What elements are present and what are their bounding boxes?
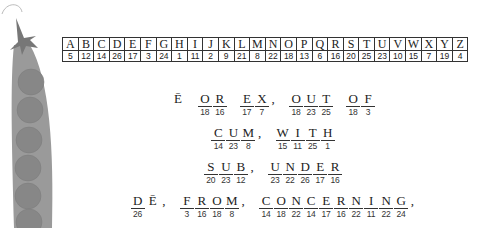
letter-cell: R16 (194, 194, 209, 219)
key-number: 21 (234, 51, 250, 62)
letter-cell: I11 (364, 194, 379, 219)
cell-number: 20 (206, 175, 215, 185)
cell-number: 16 (215, 107, 224, 117)
key-number: 8 (250, 51, 266, 62)
letter-cell: D26 (130, 194, 145, 219)
key-number: 1 (172, 51, 188, 62)
key-letter: L (234, 38, 250, 51)
key-number: 12 (78, 51, 94, 62)
key-letter: K (218, 38, 234, 51)
cell-number: 16 (336, 209, 345, 219)
cell-letter: D (131, 194, 145, 209)
cell-number: 18 (212, 209, 221, 219)
cell-number: 17 (321, 209, 330, 219)
cell-letter: R (195, 194, 209, 209)
cell-letter: N (349, 194, 363, 209)
cell-letter: U (304, 92, 318, 107)
cell-letter: U (226, 126, 240, 141)
key-letter: P (296, 38, 312, 51)
cell-letter: D (298, 160, 312, 175)
key-number: 4 (452, 51, 468, 62)
key-letter: W (406, 38, 422, 51)
letter-cell: O18 (209, 194, 224, 219)
key-letter: C (94, 38, 110, 51)
comma: , (271, 92, 274, 106)
puzzle-word: O18U23T25 (289, 92, 334, 117)
letter-cell: C14 (304, 194, 319, 219)
letter-cell: M8 (224, 194, 239, 219)
cell-letter: Ē (146, 194, 160, 208)
cell-letter: O (346, 92, 360, 107)
key-letter: S (343, 38, 359, 51)
cell-number: 1 (325, 141, 330, 151)
cell-letter: N (289, 194, 303, 209)
cell-letter: M (225, 194, 239, 209)
cell-number: 16 (197, 209, 206, 219)
key-number: 23 (374, 51, 390, 62)
letter-cell: Ē (145, 194, 160, 208)
cell-letter: I (364, 194, 378, 209)
puzzle-word: O18F3 (346, 92, 376, 117)
cell-letter: S (204, 160, 218, 175)
cell-number: 3 (366, 107, 371, 117)
cell-number: 15 (278, 141, 287, 151)
puzzle-word: C14O18N22C14E17R16N22I11N22G24, (259, 194, 416, 219)
cell-letter: B (234, 160, 248, 175)
cell-letter: E (240, 92, 254, 107)
cell-number: 7 (260, 107, 265, 117)
key-number: 15 (406, 51, 422, 62)
key-letter: E (125, 38, 141, 51)
letter-cell: N22 (379, 194, 394, 219)
key-number: 6 (312, 51, 328, 62)
puzzle-word: E17X7, (239, 92, 276, 117)
puzzle-word: D26Ē, (130, 194, 167, 219)
letter-cell: H1 (320, 126, 335, 151)
puzzle-line: C14U23M8,W15I11T25H1 (62, 126, 484, 160)
puzzle-word: S20U23B12, (203, 160, 255, 185)
cell-number: 23 (306, 107, 315, 117)
key-number: 14 (94, 51, 110, 62)
comma: , (241, 194, 244, 208)
letter-cell: W15 (275, 126, 290, 151)
letter-cell: S20 (203, 160, 218, 185)
cell-letter: F (361, 92, 375, 107)
cell-letter: M (241, 126, 255, 141)
key-number: 16 (328, 51, 344, 62)
key-number: 19 (437, 51, 453, 62)
puzzle-line: S20U23B12,U23N22D26E17R16 (62, 160, 484, 194)
cell-number: 18 (200, 107, 209, 117)
letter-cell: U23 (218, 160, 233, 185)
key-number: 9 (218, 51, 234, 62)
cell-number: 24 (396, 209, 405, 219)
cell-number: 26 (133, 209, 142, 219)
cell-number: 22 (381, 209, 390, 219)
cell-number: 11 (293, 141, 302, 151)
cell-number: 22 (291, 209, 300, 219)
cell-number: 23 (221, 175, 230, 185)
letter-cell: O18 (289, 92, 304, 117)
key-number: 24 (156, 51, 172, 62)
cell-number: 17 (242, 107, 251, 117)
letter-cell: C14 (211, 126, 226, 151)
comma: , (250, 160, 253, 174)
cell-number: 23 (229, 141, 238, 151)
puzzle-word: C14U23M8, (211, 126, 263, 151)
cell-number: 8 (246, 141, 251, 151)
key-letter: M (250, 38, 266, 51)
key-letter: Y (437, 38, 453, 51)
key-letter: J (203, 38, 219, 51)
cell-letter: R (328, 160, 342, 175)
letter-cell: G24 (394, 194, 409, 219)
letter-cell: N22 (349, 194, 364, 219)
pea-pod-illustration (0, 0, 62, 228)
letter-cell: M8 (241, 126, 256, 151)
comma: , (162, 194, 165, 208)
cell-number: 22 (285, 175, 294, 185)
cell-number: 18 (276, 209, 285, 219)
key-letter: R (328, 38, 344, 51)
puzzle-word: U23N22D26E17R16 (268, 160, 343, 185)
cell-letter: X (255, 92, 269, 107)
key-letter: O (281, 38, 297, 51)
cell-letter: O (289, 92, 303, 107)
comma: , (411, 194, 414, 208)
